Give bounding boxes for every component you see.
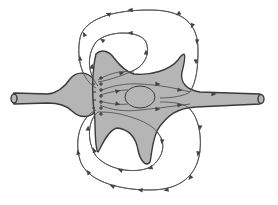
arrowhead-icon <box>160 139 165 145</box>
arrowhead-icon <box>137 188 143 193</box>
postsynaptic-cell <box>93 51 264 164</box>
postsynaptic-axon-cap <box>258 95 264 104</box>
arrowhead-icon <box>195 39 200 45</box>
arrowhead-icon <box>127 31 132 35</box>
presynaptic-terminal <box>11 73 98 116</box>
arrowhead-icon <box>109 183 115 189</box>
postsynaptic-cell-body <box>93 51 263 164</box>
presynaptic-bulb <box>13 73 99 116</box>
arrowhead-icon <box>198 125 203 131</box>
presynaptic-axon-cap <box>11 94 17 103</box>
neuron-field-diagram <box>0 0 278 205</box>
arrowhead-icon <box>78 55 83 61</box>
arrowhead-icon <box>117 167 123 173</box>
